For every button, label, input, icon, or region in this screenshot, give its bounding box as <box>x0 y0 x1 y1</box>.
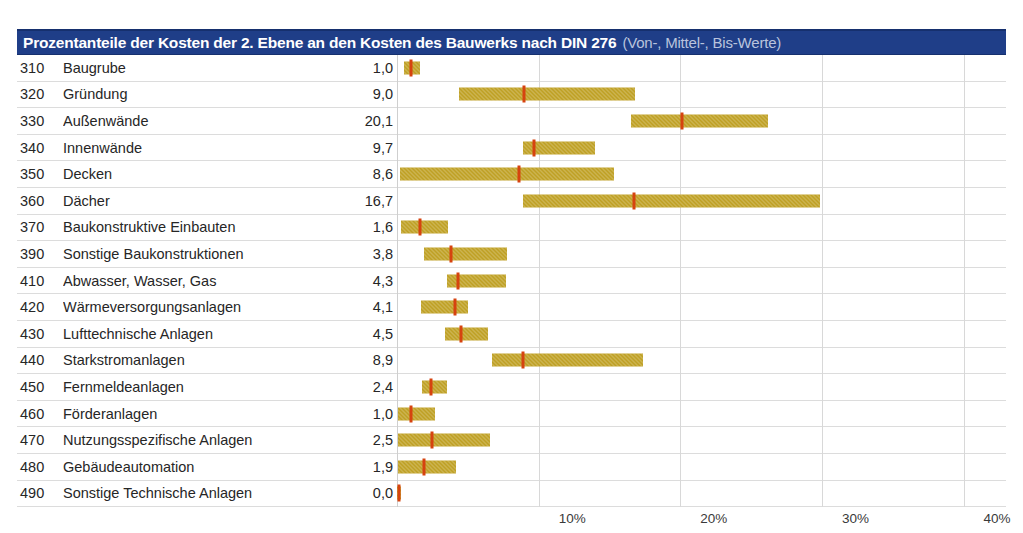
gridline <box>680 400 681 427</box>
row-plot <box>397 427 1006 454</box>
mean-marker <box>449 245 452 262</box>
gridline <box>822 81 823 108</box>
mean-marker <box>429 378 432 395</box>
row-plot <box>397 214 1006 241</box>
gridline-zero <box>397 108 398 135</box>
row-code: 470 <box>17 432 63 448</box>
row-code: 330 <box>17 113 63 129</box>
gridline <box>822 347 823 374</box>
row-code: 440 <box>17 352 63 368</box>
gridline <box>539 427 540 454</box>
gridlines <box>397 480 1006 507</box>
table-row: 480Gebäudeautomation1,9 <box>17 454 1006 481</box>
range-bar <box>398 407 435 420</box>
gridline-zero <box>397 294 398 321</box>
gridline <box>964 347 965 374</box>
table-row: 370Baukonstruktive Einbauten1,6 <box>17 215 1006 242</box>
gridline <box>680 81 681 108</box>
row-label: Abwasser, Wasser, Gas <box>63 273 349 289</box>
gridline-zero <box>397 187 398 214</box>
mean-marker <box>431 432 434 449</box>
row-value: 1,9 <box>349 459 397 475</box>
row-plot <box>397 55 1006 82</box>
gridline-zero <box>397 81 398 108</box>
range-bar <box>398 434 490 447</box>
table-row: 450Fernmeldeanlagen2,4 <box>17 374 1006 401</box>
mean-marker <box>533 139 536 156</box>
page-title: Prozentanteile der Kosten der 2. Ebene a… <box>23 34 616 52</box>
gridlines <box>397 374 1006 401</box>
row-label: Sonstige Technische Anlagen <box>63 485 349 501</box>
row-value: 1,0 <box>349 406 397 422</box>
x-tick-label: 30% <box>842 511 869 526</box>
gridline <box>964 108 965 135</box>
row-value: 9,7 <box>349 140 397 156</box>
row-value: 4,3 <box>349 273 397 289</box>
gridline <box>539 108 540 135</box>
gridline <box>680 480 681 507</box>
row-label: Gründung <box>63 86 349 102</box>
chart-figure: Prozentanteile der Kosten der 2. Ebene a… <box>0 0 1023 533</box>
row-plot <box>397 294 1006 321</box>
gridlines <box>397 320 1006 347</box>
gridlines <box>397 294 1006 321</box>
row-code: 370 <box>17 219 63 235</box>
row-plot <box>397 400 1006 427</box>
table-row: 410Abwasser, Wasser, Gas4,3 <box>17 268 1006 295</box>
x-axis-ticks: 10%20%30%40% <box>414 507 1023 533</box>
row-label: Sonstige Baukonstruktionen <box>63 246 349 262</box>
gridline <box>964 161 965 188</box>
gridline <box>680 134 681 161</box>
gridline-zero <box>397 55 398 82</box>
gridline <box>822 427 823 454</box>
gridline <box>680 453 681 480</box>
mean-marker <box>410 405 413 422</box>
range-bar <box>422 380 446 393</box>
gridline <box>539 320 540 347</box>
gridline <box>964 134 965 161</box>
table-row: 430Lufttechnische Anlagen4,5 <box>17 321 1006 348</box>
gridline <box>964 214 965 241</box>
row-code: 450 <box>17 379 63 395</box>
range-bar <box>523 194 820 207</box>
row-label: Dächer <box>63 193 349 209</box>
table-row: 330Außenwände20,1 <box>17 108 1006 135</box>
x-axis: 10%20%30%40% <box>17 507 1006 533</box>
row-value: 9,0 <box>349 86 397 102</box>
row-label: Decken <box>63 166 349 182</box>
table-row: 470Nutzungsspezifische Anlagen2,5 <box>17 427 1006 454</box>
range-bar <box>400 168 614 181</box>
x-tick-label: 10% <box>559 511 586 526</box>
gridline <box>822 294 823 321</box>
gridline <box>822 400 823 427</box>
mean-marker <box>456 272 459 289</box>
gridline <box>964 453 965 480</box>
mean-marker <box>398 485 401 502</box>
row-plot <box>397 480 1006 507</box>
gridline <box>822 453 823 480</box>
row-plot <box>397 108 1006 135</box>
gridline <box>964 187 965 214</box>
row-code: 360 <box>17 193 63 209</box>
gridline <box>822 134 823 161</box>
gridline <box>680 320 681 347</box>
row-value: 8,6 <box>349 166 397 182</box>
mean-marker <box>517 166 520 183</box>
gridline <box>964 81 965 108</box>
gridline <box>539 294 540 321</box>
gridline-zero <box>397 134 398 161</box>
gridlines <box>397 453 1006 480</box>
gridline <box>964 427 965 454</box>
row-plot <box>397 374 1006 401</box>
gridline <box>964 294 965 321</box>
gridline <box>822 55 823 82</box>
row-code: 410 <box>17 273 63 289</box>
gridline <box>822 161 823 188</box>
row-plot <box>397 81 1006 108</box>
mean-marker <box>422 458 425 475</box>
row-plot <box>397 320 1006 347</box>
gridline <box>539 480 540 507</box>
mean-marker <box>680 112 683 129</box>
row-label: Innenwände <box>63 140 349 156</box>
table-row: 390Sonstige Baukonstruktionen3,8 <box>17 241 1006 268</box>
